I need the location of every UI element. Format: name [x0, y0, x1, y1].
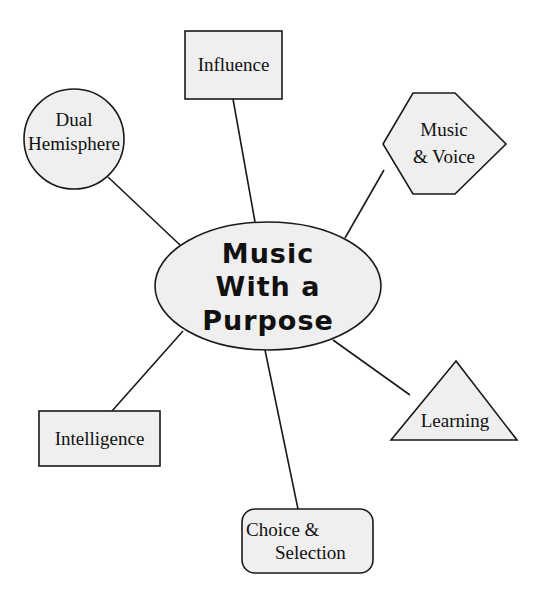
- node-label: Learning: [421, 410, 490, 431]
- node-influence: Influence: [185, 31, 282, 99]
- center-label: Purpose: [202, 305, 334, 336]
- node-learning: Learning: [391, 361, 517, 440]
- node-label: Hemisphere: [28, 133, 120, 154]
- center-label: With a: [216, 271, 321, 302]
- node-label: Intelligence: [55, 428, 145, 449]
- connector-influence: [233, 99, 255, 222]
- node-dual-hemisphere: Dual Hemisphere: [24, 89, 124, 189]
- mind-map-diagram: Influence Dual Hemisphere Music & Voice …: [0, 0, 545, 597]
- hexagon-shape: [383, 93, 506, 194]
- connector-learning: [333, 340, 410, 395]
- connector-dual-hemisphere: [108, 177, 180, 245]
- connector-intelligence: [112, 331, 183, 411]
- center-label: Music: [222, 238, 314, 269]
- node-music-voice: Music & Voice: [383, 93, 506, 194]
- node-label: Music: [420, 119, 468, 140]
- node-label: Dual: [56, 109, 93, 130]
- connector-music-voice: [345, 170, 384, 238]
- node-label: Choice &: [246, 519, 320, 540]
- connector-choice-selection: [265, 350, 298, 509]
- node-label: Selection: [275, 542, 346, 563]
- node-label: & Voice: [413, 146, 475, 167]
- center-topic: Music With a Purpose: [155, 222, 381, 350]
- node-choice-selection: Choice & Selection: [242, 509, 373, 573]
- node-label: Influence: [198, 54, 270, 75]
- node-intelligence: Intelligence: [39, 411, 160, 466]
